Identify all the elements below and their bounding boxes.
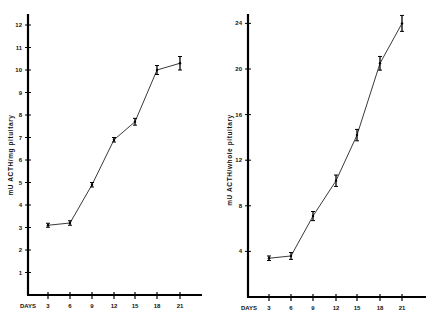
figure: 12345678910111236912151821DAYSmU ACTH/mg…: [0, 0, 435, 316]
data-point-errorbar: [400, 15, 404, 31]
x-tick-label: 18: [377, 305, 384, 311]
x-tick-label: 6: [68, 303, 72, 309]
y-tick-label: 4: [19, 202, 23, 208]
x-tick-label: 12: [333, 305, 340, 311]
x-tick-label: 15: [132, 303, 139, 309]
y-tick-label: 3: [19, 225, 23, 231]
y-tick-label: 10: [15, 67, 22, 73]
x-tick-label: 3: [46, 303, 50, 309]
y-tick-label: 20: [235, 66, 242, 72]
y-tick-label: 16: [235, 112, 242, 118]
y-tick-label: 6: [19, 157, 23, 163]
x-tick-label: 12: [111, 303, 118, 309]
data-line: [48, 63, 180, 225]
y-tick-label: 7: [19, 135, 23, 141]
y-tick-label: 12: [235, 157, 242, 163]
y-tick-label: 2: [19, 247, 23, 253]
y-tick-label: 11: [16, 45, 23, 51]
x-tick-label: 6: [289, 305, 293, 311]
y-tick-label: 9: [19, 90, 23, 96]
x-axis-title: DAYS: [241, 305, 257, 311]
y-tick-label: 8: [239, 203, 243, 209]
x-tick-label: 21: [177, 303, 184, 309]
y-tick-label: 12: [15, 22, 22, 28]
x-tick-label: 21: [399, 305, 406, 311]
y-axis-title: mU ACTH/whole pituitary: [226, 114, 234, 206]
left-chart-acth-per-mg: 12345678910111236912151821DAYSmU ACTH/mg…: [7, 14, 202, 309]
y-axis-title: mU ACTH/mg pituitary: [7, 114, 15, 195]
y-tick-label: 8: [19, 112, 23, 118]
x-tick-label: 9: [311, 305, 315, 311]
y-tick-label: 24: [235, 20, 242, 26]
y-tick-label: 4: [239, 248, 243, 254]
x-tick-label: 15: [354, 305, 361, 311]
x-tick-label: 18: [154, 303, 161, 309]
x-tick-label: 9: [90, 303, 94, 309]
data-line: [269, 23, 402, 258]
x-axis-title: DAYS: [20, 303, 36, 309]
right-chart-acth-whole-pituitary: 481216202436912151821DAYSmU ACTH/whole p…: [226, 14, 426, 311]
y-tick-label: 5: [19, 180, 23, 186]
y-tick-label: 1: [19, 270, 23, 276]
x-tick-label: 3: [267, 305, 271, 311]
